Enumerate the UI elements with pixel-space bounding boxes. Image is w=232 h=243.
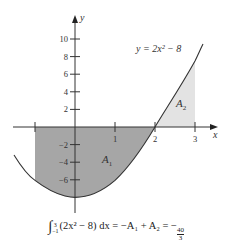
y-tick-label-8: 8	[64, 52, 68, 62]
curve-label: y = 2x² − 8	[135, 43, 181, 54]
x-tick-label-1: 1	[113, 134, 117, 144]
y-tick-label-2: 2	[64, 104, 68, 114]
y-axis-arrow-icon	[72, 15, 78, 23]
y-tick-label-10: 10	[60, 34, 69, 44]
x-tick-label-2: 2	[153, 134, 157, 144]
y-tick-label-neg2: −2	[59, 140, 68, 150]
fraction-denominator: 3	[177, 235, 184, 242]
integral-formula: ∫3−1(2x² − 8) dx = −A₁ + A₂ = −403	[0, 218, 232, 242]
region-a1	[35, 127, 155, 197]
integral-lower: −1	[52, 228, 58, 234]
chart-canvas: 1 2 3 10 8 6 4 2 −2 −4 −6 y x y = 2x² − …	[0, 0, 232, 243]
integrand-text: (2x² − 8) dx = −A₁ + A₂ = −	[60, 220, 177, 231]
y-tick-label-6: 6	[64, 69, 68, 79]
x-tick-label-3: 3	[193, 134, 197, 144]
y-axis-label: y	[79, 12, 85, 23]
y-tick-label-4: 4	[64, 87, 69, 97]
x-axis-label: x	[212, 129, 218, 140]
y-tick-label-neg4: −4	[59, 157, 69, 167]
y-tick-label-neg6: −6	[59, 175, 68, 185]
